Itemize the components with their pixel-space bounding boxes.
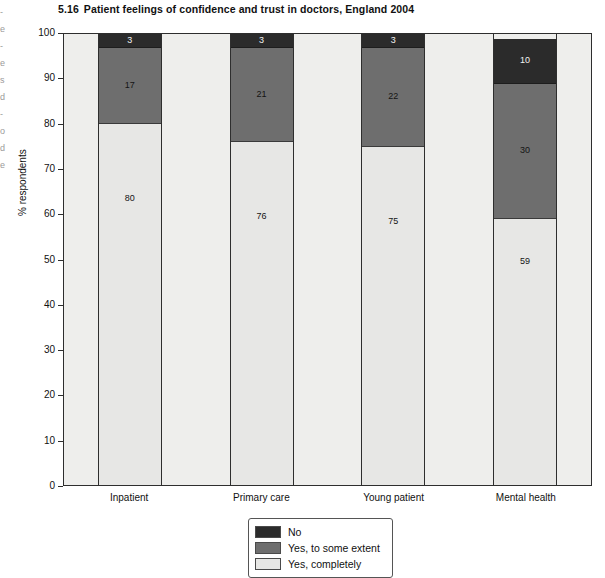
bar-segment[interactable]: 80	[99, 124, 161, 485]
bar-segment-value: 21	[257, 90, 267, 99]
y-axis-tick-label: 50	[44, 254, 55, 265]
bar-segment-value: 76	[257, 212, 267, 221]
y-axis-tick-label: 60	[44, 208, 55, 219]
bar-segment[interactable]: 3	[362, 34, 424, 48]
y-axis-tick-label: 20	[44, 389, 55, 400]
bar-segment[interactable]: 3	[231, 34, 293, 48]
plot-area: 317803217632275103059	[63, 33, 592, 486]
y-axis-tick-label: 30	[44, 344, 55, 355]
legend-label: Yes, completely	[288, 558, 361, 570]
y-axis-tick-label: 0	[49, 480, 55, 491]
legend-item[interactable]: Yes, to some extent	[255, 540, 386, 556]
legend-label: Yes, to some extent	[288, 542, 380, 554]
y-axis: 1009080706050403020100	[0, 33, 63, 486]
y-axis-tick-label: 100	[38, 27, 55, 38]
bar-segment[interactable]: 22	[362, 48, 424, 147]
chart-title-number: 5.16	[58, 3, 79, 15]
x-axis-label-young-patient: Young patient	[328, 487, 460, 509]
bar-segment-value: 30	[520, 146, 530, 155]
y-axis-tick-label: 40	[44, 299, 55, 310]
bar-segment-value: 17	[125, 81, 135, 90]
bar-segment-value: 3	[127, 36, 132, 45]
stacked-bar[interactable]: 31780	[98, 34, 162, 485]
legend-swatch-icon	[255, 558, 281, 570]
bar-segment-value: 3	[259, 36, 264, 45]
legend-swatch-icon	[255, 542, 281, 554]
stacked-bar[interactable]: 32176	[230, 34, 294, 485]
legend-item[interactable]: No	[255, 524, 386, 540]
bar-segment[interactable]: 17	[99, 48, 161, 125]
bar-segment[interactable]: 75	[362, 147, 424, 485]
legend-item[interactable]: Yes, completely	[255, 556, 386, 572]
stacked-bar[interactable]: 32275	[361, 34, 425, 485]
x-axis-label-mental-health: Mental health	[460, 487, 592, 509]
bar-segment[interactable]: 21	[231, 48, 293, 143]
bar-segment-value: 22	[388, 92, 398, 101]
bar-segment[interactable]: 3	[99, 34, 161, 48]
bar-segment-value: 75	[388, 217, 398, 226]
bar-group-young-patient[interactable]: 32275	[328, 34, 460, 485]
legend-label: No	[288, 526, 301, 538]
bar-group-primary-care[interactable]: 32176	[196, 34, 328, 485]
bar-segment-value: 59	[520, 257, 530, 266]
chart-title: 5.16Patient feelings of confidence and t…	[58, 3, 414, 15]
y-axis-title: % respondents	[17, 149, 28, 216]
y-axis-tick-label: 80	[44, 118, 55, 129]
bar-segment[interactable]: 10	[494, 39, 556, 84]
stacked-bar[interactable]: 103059	[493, 34, 557, 485]
legend: NoYes, to some extentYes, completely	[248, 518, 393, 578]
x-axis: InpatientPrimary careYoung patientMental…	[63, 487, 592, 509]
bar-segment[interactable]: 30	[494, 84, 556, 219]
y-axis-tick-label: 70	[44, 163, 55, 174]
y-axis-tick-label: 90	[44, 72, 55, 83]
x-axis-label-primary-care: Primary care	[195, 487, 327, 509]
bars-container: 317803217632275103059	[64, 34, 591, 485]
bar-segment-value: 10	[520, 56, 530, 65]
y-axis-tick-label: 10	[44, 435, 55, 446]
bar-segment-value: 80	[125, 194, 135, 203]
legend-swatch-icon	[255, 526, 281, 538]
bar-segment[interactable]: 76	[231, 142, 293, 485]
bar-group-mental-health[interactable]: 103059	[459, 34, 591, 485]
bar-segment[interactable]: 59	[494, 219, 556, 485]
chart-title-text: Patient feelings of confidence and trust…	[84, 3, 414, 15]
bar-segment-value: 3	[391, 36, 396, 45]
bar-group-inpatient[interactable]: 31780	[64, 34, 196, 485]
x-axis-label-inpatient: Inpatient	[63, 487, 195, 509]
